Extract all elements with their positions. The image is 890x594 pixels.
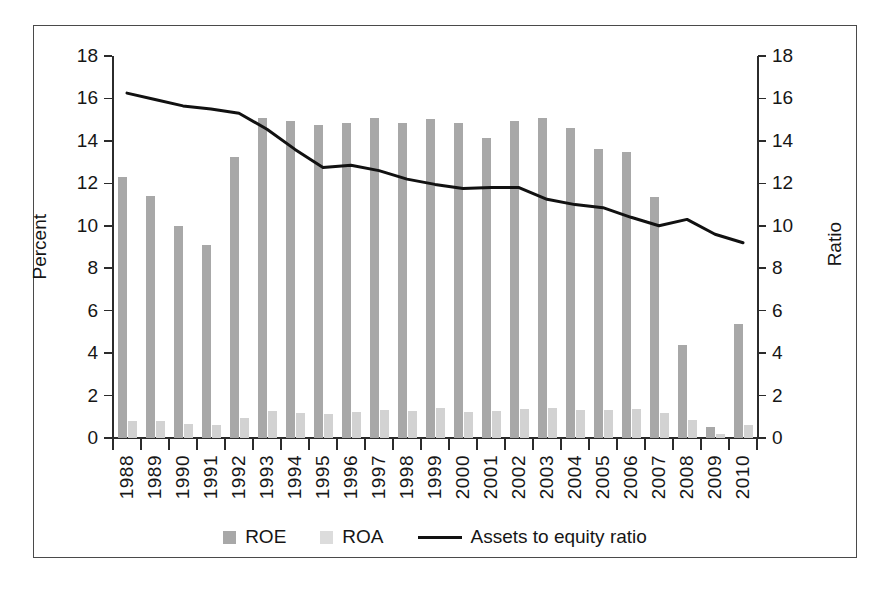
x-axis-label: 1996 [341, 455, 360, 499]
x-axis-label: 2005 [593, 455, 612, 499]
x-tick [196, 439, 198, 450]
x-tick [644, 439, 646, 450]
y-axis-right [757, 56, 759, 439]
x-axis-label: 1994 [285, 455, 304, 499]
plot-area [113, 56, 757, 438]
x-axis-label: 2009 [705, 455, 724, 499]
y-tick-label-right: 10 [772, 216, 806, 235]
y-tick-right [758, 395, 766, 397]
x-axis-label: 1990 [173, 455, 192, 499]
x-tick [364, 439, 366, 450]
legend-label-assets-to-equity-ratio: Assets to equity ratio [471, 526, 647, 548]
y-tick-label-right: 12 [772, 173, 806, 192]
legend-label-roa: ROA [342, 526, 383, 548]
y-tick-label-right: 4 [772, 343, 806, 362]
legend-item-roe: ROE [223, 526, 286, 548]
x-axis-label: 2010 [733, 455, 752, 499]
x-tick [476, 439, 478, 450]
x-axis-label: 1993 [257, 455, 276, 499]
x-axis-label: 1991 [201, 455, 220, 499]
x-axis-label: 2002 [509, 455, 528, 499]
chart-figure: Percent Ratio 024681012141618 0246810121… [0, 0, 890, 594]
y-axis-right-title: Ratio [824, 222, 846, 266]
y-tick-label-right: 16 [772, 88, 806, 107]
y-tick-left [104, 437, 112, 439]
y-tick-label-left: 18 [64, 46, 98, 65]
legend-swatch-roa [320, 531, 333, 544]
y-tick-label-left: 4 [64, 343, 98, 362]
x-tick [252, 439, 254, 450]
x-axis-label: 1998 [397, 455, 416, 499]
y-tick-left [104, 267, 112, 269]
x-tick [756, 439, 758, 450]
x-axis-label: 1989 [145, 455, 164, 499]
y-tick-label-left: 0 [64, 428, 98, 447]
legend-item-roa: ROA [320, 526, 383, 548]
y-tick-right [758, 140, 766, 142]
x-tick [504, 439, 506, 450]
y-tick-right [758, 267, 766, 269]
x-axis-label: 2003 [537, 455, 556, 499]
x-tick [616, 439, 618, 450]
y-axis-left-title: Percent [29, 214, 51, 279]
x-tick [700, 439, 702, 450]
y-tick-left [104, 98, 112, 100]
y-tick-label-right: 0 [772, 428, 806, 447]
line-series-svg [113, 56, 757, 438]
x-axis-label: 1988 [117, 455, 136, 499]
y-tick-right [758, 437, 766, 439]
y-tick-label-left: 14 [64, 131, 98, 150]
x-axis-label: 2004 [565, 455, 584, 499]
x-tick [392, 439, 394, 450]
x-tick [308, 439, 310, 450]
x-axis-label: 2007 [649, 455, 668, 499]
x-axis-label: 1999 [425, 455, 444, 499]
y-tick-right [758, 55, 766, 57]
y-tick-left [104, 310, 112, 312]
y-tick-left [104, 395, 112, 397]
y-tick-left [104, 225, 112, 227]
y-tick-right [758, 225, 766, 227]
x-tick [560, 439, 562, 450]
y-tick-left [104, 140, 112, 142]
x-tick [448, 439, 450, 450]
y-tick-label-left: 8 [64, 258, 98, 277]
y-tick-left [104, 55, 112, 57]
y-tick-label-right: 6 [772, 301, 806, 320]
y-tick-right [758, 98, 766, 100]
x-tick [280, 439, 282, 450]
x-tick [168, 439, 170, 450]
x-axis-label: 2001 [481, 455, 500, 499]
y-tick-label-left: 12 [64, 173, 98, 192]
legend-swatch-roe [223, 531, 236, 544]
y-tick-right [758, 352, 766, 354]
legend-item-assets-to-equity-ratio: Assets to equity ratio [418, 526, 647, 548]
x-axis-label: 2000 [453, 455, 472, 499]
y-tick-left [104, 183, 112, 185]
x-tick [336, 439, 338, 450]
chart-legend: ROE ROA Assets to equity ratio [113, 524, 757, 550]
x-axis-label: 2008 [677, 455, 696, 499]
x-tick [112, 439, 114, 450]
x-tick [140, 439, 142, 450]
x-tick [588, 439, 590, 450]
y-tick-label-right: 14 [772, 131, 806, 150]
y-tick-label-right: 2 [772, 386, 806, 405]
y-tick-label-left: 2 [64, 386, 98, 405]
legend-label-roe: ROE [245, 526, 286, 548]
x-axis-label: 1997 [369, 455, 388, 499]
y-tick-label-left: 16 [64, 88, 98, 107]
y-tick-right [758, 310, 766, 312]
x-axis-label: 1992 [229, 455, 248, 499]
x-tick [420, 439, 422, 450]
y-tick-right [758, 183, 766, 185]
x-tick [672, 439, 674, 450]
legend-swatch-line [418, 536, 462, 539]
y-tick-left [104, 352, 112, 354]
x-axis-label: 1995 [313, 455, 332, 499]
x-tick [728, 439, 730, 450]
y-tick-label-left: 6 [64, 301, 98, 320]
y-tick-label-right: 8 [772, 258, 806, 277]
line-assets-to-equity-ratio [127, 93, 743, 243]
y-tick-label-right: 18 [772, 46, 806, 65]
